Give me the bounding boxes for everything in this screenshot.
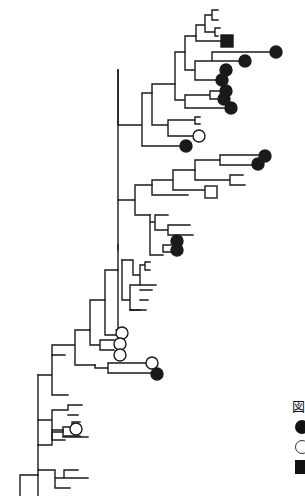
filled-circle-icon xyxy=(270,46,282,58)
filled-circle-icon xyxy=(295,420,305,434)
open-circle-icon xyxy=(116,327,128,339)
tree-branches xyxy=(20,10,270,496)
filled-circle-icon xyxy=(171,244,183,256)
open-circle-icon xyxy=(70,423,82,435)
filled-square-icon xyxy=(295,460,305,474)
open-circle-icon xyxy=(295,440,305,454)
filled-square-icon xyxy=(221,35,233,47)
open-circle-icon xyxy=(114,338,126,350)
filled-circle-icon xyxy=(252,158,264,170)
open-circle-icon xyxy=(193,130,205,142)
legend: 図 xyxy=(292,400,305,478)
filled-circle-icon xyxy=(225,102,237,114)
filled-circle-icon xyxy=(180,140,192,152)
legend-item-filled-square xyxy=(292,458,305,478)
open-circle-icon xyxy=(146,357,158,369)
legend-item-open-circle xyxy=(292,438,305,458)
filled-circle-icon xyxy=(151,368,163,380)
leaf-markers xyxy=(70,35,282,435)
filled-circle-icon xyxy=(239,55,251,67)
phylogenetic-tree xyxy=(0,0,305,496)
filled-circle-icon xyxy=(216,74,228,86)
open-circle-icon xyxy=(114,349,126,361)
legend-item-filled-circle xyxy=(292,418,305,438)
open-square-icon xyxy=(205,186,217,198)
legend-title: 図 xyxy=(292,400,305,418)
